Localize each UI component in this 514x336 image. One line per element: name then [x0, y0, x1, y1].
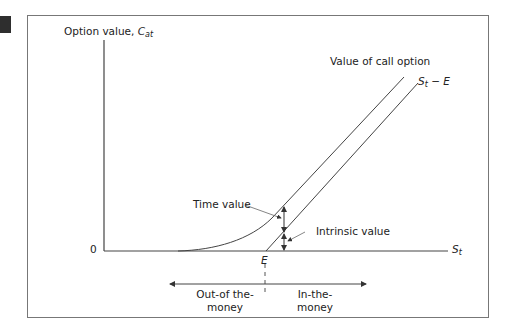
y-axis-label: Option value, Cat: [64, 25, 153, 39]
strike-label: E: [261, 254, 268, 266]
time-value-label: Time value: [193, 198, 251, 210]
in-money-label: In-the-money: [280, 288, 350, 314]
intrinsic-line-label: St − E: [418, 75, 450, 89]
x-axis-label: St: [452, 243, 462, 257]
intrinsic-value-label: Intrinsic value: [316, 225, 390, 237]
out-of-money-label: Out-of the-money: [190, 288, 260, 314]
option-value-diagram: [0, 0, 514, 336]
call-option-label: Value of call option: [330, 55, 430, 67]
origin-label: 0: [90, 243, 97, 255]
